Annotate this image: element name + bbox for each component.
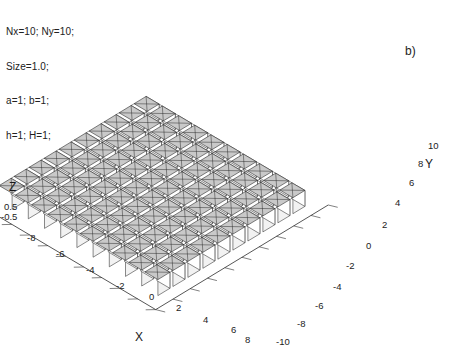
tick-label-y-5: 0: [366, 240, 371, 251]
tick-label-y-4: 2: [382, 219, 387, 230]
axis-title-y: Y: [425, 157, 433, 171]
tick-label-x-8: 8: [245, 334, 250, 345]
axis-title-x: X: [135, 330, 143, 344]
tick-label-x-5: 2: [176, 302, 181, 313]
tick-label-y-1: 8: [418, 158, 423, 169]
tick-label-x-0: -8: [27, 232, 35, 243]
tick-label-y-9: -8: [297, 318, 305, 329]
tick-label-y-0: 10: [428, 140, 439, 151]
lattice-svg: [0, 0, 449, 348]
tick-label-x-4: 0: [149, 291, 154, 302]
figure-root: Nx=10; Ny=10; Size=1.0; a=1; b=1; h=1; H…: [0, 0, 449, 348]
tick-label-x-7: 6: [231, 324, 236, 335]
tick-label-x-3: -2: [116, 280, 124, 291]
tick-label-y-6: -2: [346, 260, 354, 271]
tick-label-y-8: -6: [315, 300, 323, 311]
tick-label-x-1: -6: [56, 248, 64, 259]
axis-title-z: Z: [9, 180, 16, 194]
tick-label-z-1: -0.5: [1, 211, 17, 222]
tick-label-y-3: 4: [395, 197, 400, 208]
tick-label-y-2: 6: [409, 177, 414, 188]
lattice-plot-canvas: [0, 0, 449, 348]
tick-label-y-7: -4: [333, 281, 341, 292]
tick-label-y-10: -10: [276, 336, 290, 347]
tick-label-x-2: -4: [86, 264, 94, 275]
tick-label-x-6: 4: [203, 314, 208, 325]
